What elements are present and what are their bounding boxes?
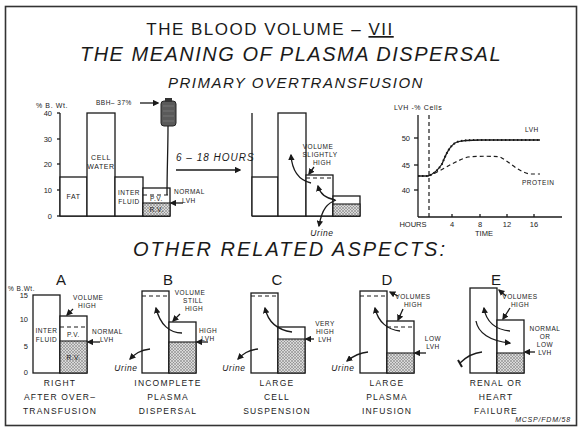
- svg-text:HIGH: HIGH: [316, 328, 334, 335]
- main-title: THE BLOOD VOLUME – VII: [146, 20, 393, 39]
- svg-text:R.V.: R.V.: [66, 354, 80, 361]
- svg-text:AFTER OVER–: AFTER OVER–: [24, 392, 96, 402]
- svg-text:PLASMA: PLASMA: [366, 392, 408, 402]
- svg-text:VOLUMES: VOLUMES: [395, 293, 430, 300]
- bar-interstitial-fluid: [115, 177, 143, 216]
- svg-text:Urine: Urine: [331, 363, 354, 373]
- svg-text:DISPERSAL: DISPERSAL: [139, 406, 198, 416]
- svg-text:LVH: LVH: [182, 197, 196, 204]
- svg-text:FAT: FAT: [66, 193, 80, 200]
- svg-text:6 – 18 HOURS: 6 – 18 HOURS: [176, 152, 255, 163]
- svg-text:FLUID: FLUID: [118, 198, 139, 205]
- svg-text:P.V.: P.V.: [67, 331, 80, 338]
- svg-text:HIGH: HIGH: [404, 301, 422, 308]
- bottle-label: BBH– 37%: [96, 99, 132, 106]
- svg-text:20: 20: [44, 160, 52, 169]
- svg-text:TRANSFUSION: TRANSFUSION: [23, 406, 97, 416]
- subtitle: THE MEANING OF PLASMA DISPERSAL: [80, 43, 502, 65]
- svg-text:LVH: LVH: [538, 349, 552, 356]
- svg-text:R.V.: R.V.: [149, 206, 163, 213]
- svg-text:OR: OR: [540, 333, 551, 340]
- urine-label: Urine: [310, 228, 333, 238]
- svg-text:STILL: STILL: [183, 297, 203, 304]
- svg-text:5: 5: [24, 342, 28, 351]
- svg-text:VERY: VERY: [315, 320, 335, 327]
- svg-text:HOURS: HOURS: [399, 220, 426, 229]
- svg-text:VOLUME: VOLUME: [303, 143, 334, 150]
- svg-text:LVH: LVH: [525, 126, 539, 133]
- panel-lvh-chart: LVH -% Cells 50 45 40 HOURS 4 8 12 16 TI…: [394, 104, 562, 238]
- svg-text:E: E: [491, 271, 501, 288]
- svg-text:WATER: WATER: [87, 163, 115, 170]
- svg-text:15: 15: [20, 291, 28, 300]
- svg-text:CELL: CELL: [91, 154, 111, 161]
- svg-text:LVH: LVH: [318, 336, 332, 343]
- lvh-line-solid: [418, 140, 540, 176]
- svg-text:PLASMA: PLASMA: [147, 392, 189, 402]
- svg-text:TIME: TIME: [475, 229, 493, 238]
- aspect-e: E VOLUMES HIGH NORMAL OR LOW LVH RENAL O…: [458, 271, 560, 416]
- svg-text:4: 4: [450, 220, 454, 229]
- svg-text:C: C: [272, 271, 283, 288]
- svg-text:A: A: [56, 271, 66, 288]
- svg-text:HIGH: HIGH: [199, 327, 217, 334]
- aspect-d: D VOLUMES HIGH LOW LVH Urine LARGE PLASM…: [331, 271, 441, 416]
- svg-text:Urine: Urine: [114, 363, 137, 373]
- svg-text:VOLUME: VOLUME: [175, 289, 206, 296]
- svg-text:0: 0: [24, 368, 28, 377]
- svg-text:NORMAL: NORMAL: [174, 188, 205, 195]
- svg-text:HIGH: HIGH: [185, 305, 203, 312]
- svg-text:LARGE: LARGE: [370, 378, 405, 388]
- svg-text:LVH: LVH: [100, 336, 114, 343]
- svg-text:INFUSION: INFUSION: [362, 406, 412, 416]
- chart-y-label: LVH -% Cells: [394, 104, 442, 111]
- footer-credit: MCSP/FDM/58: [515, 416, 571, 423]
- panel-after-dispersal: VOLUME SLIGHTLY HIGH Urine: [252, 113, 360, 238]
- svg-text:PROTEIN: PROTEIN: [522, 179, 554, 186]
- svg-text:10: 10: [44, 186, 52, 195]
- svg-text:8: 8: [478, 220, 482, 229]
- svg-text:HEART: HEART: [479, 392, 514, 402]
- svg-text:SLIGHTLY: SLIGHTLY: [303, 151, 338, 158]
- aspect-c: C VERY HIGH LVH Urine LARGE CELL SUSPENS…: [222, 271, 335, 416]
- svg-text:FLUID: FLUID: [36, 336, 57, 343]
- svg-text:10: 10: [20, 315, 28, 324]
- svg-text:B: B: [163, 271, 173, 288]
- aspect-a: A % B.Wt. 15 10 5 0 INTER FLUID P.V. R.V…: [8, 271, 123, 416]
- svg-text:LOW: LOW: [425, 335, 442, 342]
- svg-text:LOW: LOW: [537, 341, 554, 348]
- svg-text:RENAL OR: RENAL OR: [470, 378, 523, 388]
- svg-text:LARGE: LARGE: [260, 378, 295, 388]
- svg-text:NORMAL: NORMAL: [92, 328, 123, 335]
- svg-text:FAILURE: FAILURE: [474, 406, 518, 416]
- svg-text:P.V.: P.V.: [150, 195, 163, 202]
- svg-text:40: 40: [44, 109, 52, 118]
- svg-text:16: 16: [530, 220, 538, 229]
- svg-text:HIGH: HIGH: [78, 302, 96, 309]
- time-arrow: 6 – 18 HOURS: [176, 152, 255, 170]
- svg-text:INCOMPLETE: INCOMPLETE: [134, 378, 201, 388]
- protein-line: [428, 156, 540, 176]
- svg-text:SUSPENSION: SUSPENSION: [243, 406, 311, 416]
- section-other-aspects: OTHER RELATED ASPECTS:: [133, 238, 447, 260]
- svg-text:30: 30: [44, 135, 52, 144]
- svg-text:45: 45: [402, 161, 410, 170]
- svg-text:LVH: LVH: [426, 343, 440, 350]
- svg-text:HIGH: HIGH: [511, 301, 529, 308]
- svg-text:RIGHT: RIGHT: [44, 378, 76, 388]
- blood-volume-diagram: THE BLOOD VOLUME – VII THE MEANING OF PL…: [0, 0, 582, 432]
- svg-text:VOLUMES: VOLUMES: [502, 293, 537, 300]
- title-numeral: VII: [368, 20, 393, 39]
- svg-text:12: 12: [503, 220, 511, 229]
- svg-text:NORMAL: NORMAL: [530, 325, 561, 332]
- transfusion-bottle-icon: [161, 98, 176, 126]
- svg-text:INTER: INTER: [118, 189, 140, 196]
- svg-text:0: 0: [48, 212, 52, 221]
- svg-text:50: 50: [402, 134, 410, 143]
- svg-text:VOLUME: VOLUME: [73, 294, 104, 301]
- svg-text:INTER: INTER: [36, 327, 58, 334]
- aspect-b: B VOLUME STILL HIGH HIGH LVH Urine INCOM…: [114, 271, 217, 416]
- svg-text:HIGH: HIGH: [313, 159, 331, 166]
- svg-text:40: 40: [402, 186, 410, 195]
- svg-text:CELL: CELL: [264, 392, 290, 402]
